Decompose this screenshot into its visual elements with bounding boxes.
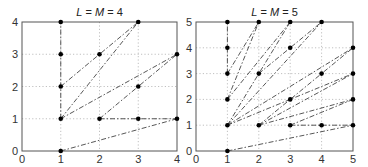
- x-tick-label: 5: [350, 153, 356, 165]
- y-tick-label: 0: [186, 145, 192, 157]
- chart-panel-right: 012345012345L = M = 5: [186, 6, 356, 165]
- data-point: [257, 123, 262, 128]
- data-point: [225, 71, 230, 76]
- data-point: [257, 71, 262, 76]
- x-tick-label: 3: [287, 153, 293, 165]
- x-tick-label: 2: [256, 153, 262, 165]
- y-tick-label: 4: [186, 42, 192, 54]
- y-tick-label: 5: [186, 16, 192, 28]
- chart-title: L = M = 5: [251, 6, 298, 18]
- data-point: [225, 20, 230, 25]
- y-tick-label: 4: [12, 16, 18, 28]
- data-point: [288, 46, 293, 51]
- data-point: [97, 52, 102, 57]
- y-tick-label: 3: [12, 48, 18, 60]
- x-tick-label: 0: [19, 153, 25, 165]
- x-tick-label: 4: [319, 153, 325, 165]
- x-tick-label: 0: [193, 153, 199, 165]
- data-point: [288, 97, 293, 102]
- data-point: [288, 20, 293, 25]
- data-point: [58, 52, 63, 57]
- figure: 0123401234L = M = 4 012345012345L = M = …: [0, 0, 368, 167]
- chart-title: L = M = 4: [76, 6, 123, 18]
- y-tick-label: 1: [186, 119, 192, 131]
- x-tick-label: 2: [96, 153, 102, 165]
- data-segment: [259, 99, 353, 125]
- data-point: [319, 71, 324, 76]
- data-point: [351, 46, 356, 51]
- data-segment: [259, 48, 353, 125]
- data-point: [58, 20, 63, 25]
- data-point: [175, 52, 180, 57]
- data-point: [97, 116, 102, 121]
- data-point: [351, 71, 356, 76]
- data-point: [136, 116, 141, 121]
- data-point: [225, 123, 230, 128]
- x-tick-label: 3: [135, 153, 141, 165]
- x-tick-label: 1: [224, 153, 230, 165]
- y-tick-label: 0: [12, 145, 18, 157]
- y-tick-label: 2: [12, 81, 18, 93]
- data-point: [319, 20, 324, 25]
- data-point: [257, 20, 262, 25]
- y-tick-label: 2: [186, 93, 192, 105]
- data-point: [351, 123, 356, 128]
- y-tick-label: 3: [186, 68, 192, 80]
- data-point: [58, 116, 63, 121]
- y-tick-label: 1: [12, 113, 18, 125]
- chart-panel-left: 0123401234L = M = 4: [12, 6, 180, 165]
- data-segment: [61, 119, 177, 151]
- x-tick-label: 1: [58, 153, 64, 165]
- data-point: [58, 84, 63, 89]
- data-segment: [227, 125, 353, 151]
- data-point: [175, 116, 180, 121]
- data-point: [136, 20, 141, 25]
- data-point: [351, 97, 356, 102]
- data-point: [225, 97, 230, 102]
- data-segment: [61, 54, 177, 119]
- data-point: [288, 123, 293, 128]
- data-point: [319, 123, 324, 128]
- x-tick-label: 4: [174, 153, 180, 165]
- data-point: [225, 46, 230, 51]
- data-point: [136, 84, 141, 89]
- data-segment: [227, 22, 258, 99]
